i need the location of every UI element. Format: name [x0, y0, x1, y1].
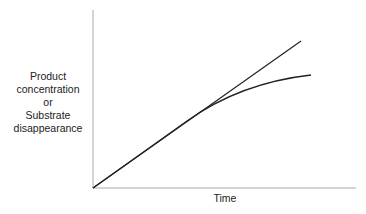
- y-label-line: Product: [0, 70, 96, 83]
- y-label-line: disappearance: [0, 122, 96, 135]
- progress-curve: [93, 75, 311, 188]
- y-label-line: or: [0, 96, 96, 109]
- y-label-line: Substrate: [0, 109, 96, 122]
- y-label-line: concentration: [0, 83, 96, 96]
- x-axis-label: Time: [200, 192, 250, 204]
- y-axis-label: Product concentration or Substrate disap…: [0, 70, 96, 135]
